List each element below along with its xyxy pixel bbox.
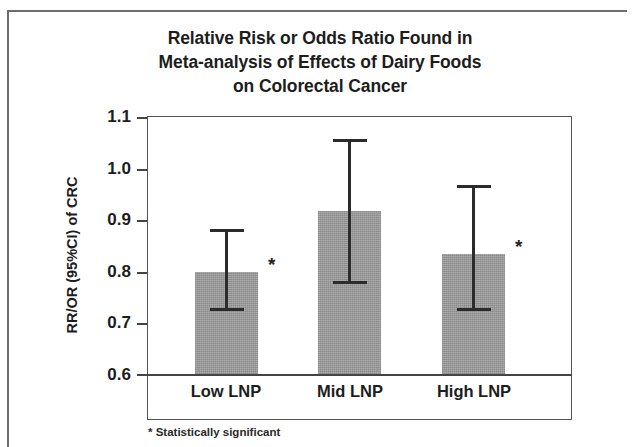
y-tick-label-5: 0.7 <box>85 313 131 333</box>
footnote-statistically-significant: * Statistically significant <box>148 426 280 438</box>
errorbar-stem-mid-lnp <box>348 140 351 282</box>
errorbar-cap-upper-high-lnp <box>457 185 491 188</box>
y-axis-tick-labels: 1.1 1.0 0.9 0.8 0.7 0.6 <box>85 0 131 447</box>
y-tick-mark-6 <box>137 374 147 376</box>
x-tick-label-high-lnp: High LNP <box>404 382 544 401</box>
chart-title: Relative Risk or Odds Ratio Found in Met… <box>60 26 580 98</box>
y-tick-mark-5 <box>137 323 147 325</box>
chart-figure: Relative Risk or Odds Ratio Found in Met… <box>0 0 633 447</box>
errorbar-cap-upper-mid-lnp <box>333 139 367 142</box>
y-tick-label-6: 0.6 <box>85 365 131 385</box>
y-axis-title: RR/OR (95%CI) of CRC <box>64 165 80 345</box>
chart-title-line-1: Relative Risk or Odds Ratio Found in <box>60 26 580 50</box>
y-tick-mark-3 <box>137 220 147 222</box>
significance-marker-high-lnp: * <box>515 237 522 256</box>
errorbar-cap-upper-low-lnp <box>210 229 244 232</box>
y-tick-mark-2 <box>137 169 147 171</box>
errorbar-cap-lower-mid-lnp <box>333 281 367 284</box>
y-tick-label-4: 0.8 <box>85 262 131 282</box>
chart-title-line-3: on Colorectal Cancer <box>60 74 580 98</box>
x-tick-label-mid-lnp: Mid LNP <box>280 382 420 401</box>
y-tick-label-3: 0.9 <box>85 210 131 230</box>
errorbar-cap-lower-high-lnp <box>457 308 491 311</box>
y-tick-label-1: 1.1 <box>85 107 131 127</box>
y-tick-mark-1 <box>137 117 147 119</box>
chart-title-line-2: Meta-analysis of Effects of Dairy Foods <box>60 50 580 74</box>
x-tick-label-low-lnp: Low LNP <box>156 382 296 401</box>
y-tick-mark-4 <box>137 272 147 274</box>
errorbar-stem-high-lnp <box>472 187 475 310</box>
y-tick-label-2: 1.0 <box>85 159 131 179</box>
significance-marker-low-lnp: * <box>268 255 275 274</box>
plot-data-area <box>147 117 572 375</box>
x-axis-line <box>147 374 572 376</box>
errorbar-stem-low-lnp <box>225 231 228 310</box>
errorbar-cap-lower-low-lnp <box>210 308 244 311</box>
